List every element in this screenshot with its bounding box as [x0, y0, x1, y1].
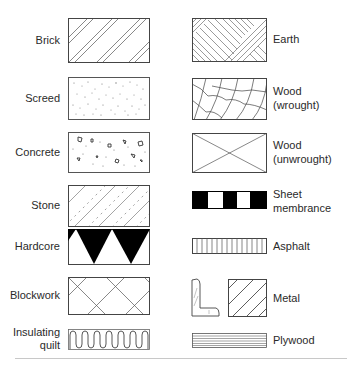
label-wood-wrought-line1: Wood	[273, 85, 302, 98]
metal-angle-section-icon	[191, 278, 220, 317]
blockwork-crosshatch-icon	[68, 277, 150, 315]
label-sheet-membrance-line2: membrance	[273, 202, 331, 215]
label-stone: Stone	[0, 199, 60, 212]
stone-hatch-icon	[68, 185, 150, 227]
metal-hatch-square-icon	[228, 279, 267, 317]
bottom-divider	[15, 358, 347, 359]
label-concrete: Concrete	[0, 146, 60, 159]
label-insulating-quilt-line1: Insulating	[0, 326, 60, 339]
label-blockwork: Blockwork	[0, 289, 60, 302]
label-sheet-membrance-line1: Sheet	[273, 188, 302, 201]
label-earth: Earth	[273, 33, 299, 46]
insulating-quilt-wave-icon	[68, 329, 150, 350]
label-screed: Screed	[0, 92, 60, 105]
wood-unwrought-cross-icon	[192, 133, 267, 173]
sheet-membrance-blocks-icon	[192, 191, 267, 209]
label-insulating-quilt-line2: quilt	[0, 339, 60, 352]
label-metal: Metal	[273, 292, 300, 305]
concrete-aggregate-icon	[68, 132, 150, 173]
earth-hatch-icon	[192, 18, 267, 62]
label-brick: Brick	[0, 34, 60, 47]
label-plywood: Plywood	[273, 334, 315, 347]
screed-stipple-icon	[68, 77, 150, 120]
label-wood-unwrought-line2: (unwrought)	[273, 153, 332, 166]
asphalt-vertical-lines-icon	[192, 238, 267, 254]
label-hardcore: Hardcore	[0, 240, 60, 253]
label-wood-unwrought-line1: Wood	[273, 139, 302, 152]
wood-wrought-grain-icon	[192, 78, 267, 120]
label-wood-wrought-line2: (wrought)	[273, 99, 319, 112]
hardcore-triangles-icon	[68, 229, 150, 265]
plywood-laminate-icon	[192, 333, 267, 348]
label-asphalt: Asphalt	[273, 240, 310, 253]
brick-hatch-icon	[68, 18, 150, 63]
